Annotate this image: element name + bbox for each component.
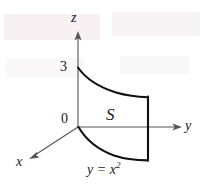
region-label-s: S <box>106 106 115 123</box>
upper-boundary-curve <box>78 68 148 98</box>
axis-x-line <box>35 127 78 155</box>
coordinate-diagram-svg <box>0 0 207 189</box>
axis-label-x: x <box>16 155 22 169</box>
figure-container: z y x 3 0 S y = x2 <box>0 0 207 189</box>
axis-z-group <box>74 31 81 127</box>
axis-y-group <box>78 123 182 130</box>
lower-boundary-curve <box>79 127 149 160</box>
curve-equation-lhs: y = x <box>87 162 116 177</box>
origin-label-zero: 0 <box>61 112 68 126</box>
axis-x-group <box>29 127 78 159</box>
curve-equation-exponent: 2 <box>116 160 121 170</box>
curve-equation-label: y = x2 <box>87 163 120 177</box>
tick-label-three: 3 <box>60 60 67 74</box>
axis-label-z: z <box>71 11 76 25</box>
axis-label-y: y <box>185 119 191 133</box>
